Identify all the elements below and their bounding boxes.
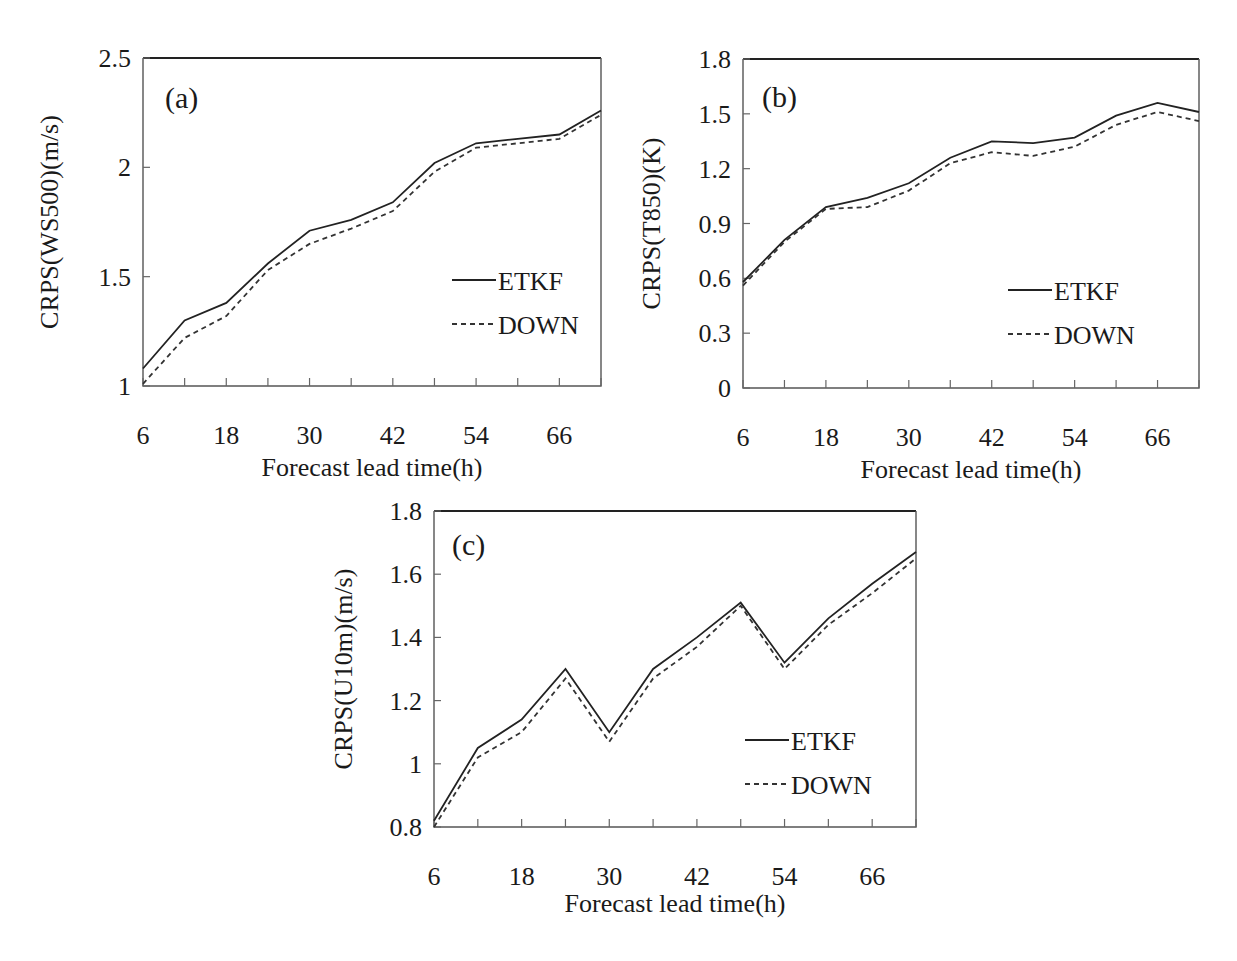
x-tick-label: 42 — [979, 423, 1005, 452]
series-line-down — [743, 112, 1199, 286]
y-tick-label: 0.3 — [699, 319, 732, 348]
y-tick-label: 1 — [409, 750, 422, 779]
y-tick-label: 1.2 — [699, 155, 732, 184]
x-tick-label: 6 — [428, 862, 441, 891]
chart-panel-c: 618304254660.811.21.41.61.8Forecast lead… — [329, 497, 916, 918]
x-tick-label: 42 — [684, 862, 710, 891]
x-tick-label: 66 — [546, 421, 572, 450]
x-tick-label: 18 — [813, 423, 839, 452]
legend: ETKFDOWN — [452, 267, 579, 340]
legend-label-etkf: ETKF — [1054, 277, 1119, 306]
legend-label-etkf: ETKF — [498, 267, 563, 296]
y-tick-label: 1.6 — [390, 560, 423, 589]
y-tick-label: 1.8 — [699, 45, 732, 74]
legend-label-down: DOWN — [1054, 321, 1135, 350]
x-tick-label: 18 — [213, 421, 239, 450]
y-tick-label: 1.2 — [390, 687, 423, 716]
y-tick-label: 0 — [718, 374, 731, 403]
x-tick-label: 54 — [463, 421, 489, 450]
y-axis-title: CRPS(WS500)(m/s) — [35, 115, 64, 329]
x-tick-label: 66 — [859, 862, 885, 891]
x-tick-label: 30 — [297, 421, 323, 450]
x-axis-title: Forecast lead time(h) — [565, 889, 786, 918]
x-tick-label: 30 — [596, 862, 622, 891]
y-tick-label: 1.8 — [390, 497, 423, 526]
y-tick-label: 0.8 — [390, 813, 423, 842]
panel-label: (b) — [762, 80, 797, 114]
y-tick-label: 0.6 — [699, 264, 732, 293]
y-tick-label: 1.5 — [99, 263, 132, 292]
x-tick-label: 18 — [509, 862, 535, 891]
y-axis-title: CRPS(T850)(K) — [637, 138, 666, 310]
x-tick-label: 6 — [137, 421, 150, 450]
legend-label-down: DOWN — [791, 771, 872, 800]
x-tick-label: 54 — [1062, 423, 1088, 452]
figure: 6183042546611.522.5Forecast lead time(h)… — [0, 0, 1237, 961]
x-axis-title: Forecast lead time(h) — [861, 455, 1082, 484]
x-tick-label: 54 — [772, 862, 798, 891]
series-line-etkf — [743, 103, 1199, 282]
legend: ETKFDOWN — [745, 727, 872, 800]
panel-label: (a) — [165, 81, 198, 115]
x-tick-label: 66 — [1145, 423, 1171, 452]
y-tick-label: 2 — [118, 153, 131, 182]
panel-label: (c) — [452, 528, 485, 562]
x-tick-label: 6 — [737, 423, 750, 452]
y-tick-label: 1.4 — [390, 623, 423, 652]
x-tick-label: 42 — [380, 421, 406, 450]
chart-panel-a: 6183042546611.522.5Forecast lead time(h)… — [35, 44, 601, 482]
y-axis-title: CRPS(U10m)(m/s) — [329, 569, 358, 770]
legend: ETKFDOWN — [1008, 277, 1135, 350]
legend-label-etkf: ETKF — [791, 727, 856, 756]
y-tick-label: 1.5 — [699, 100, 732, 129]
legend-label-down: DOWN — [498, 311, 579, 340]
x-axis-title: Forecast lead time(h) — [262, 453, 483, 482]
chart-panel-b: 6183042546600.30.60.91.21.51.8Forecast l… — [637, 45, 1199, 484]
x-tick-label: 30 — [896, 423, 922, 452]
series-line-down — [143, 115, 601, 384]
y-tick-label: 1 — [118, 372, 131, 401]
y-tick-label: 0.9 — [699, 210, 732, 239]
y-tick-label: 2.5 — [99, 44, 132, 73]
